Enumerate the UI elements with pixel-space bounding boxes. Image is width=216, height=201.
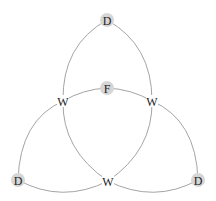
- node-label: F: [104, 82, 111, 96]
- node-d-bottom-left: D: [11, 173, 25, 188]
- triquetra-graph-diagram: D F W W D W D: [0, 0, 216, 201]
- node-f-center: F: [100, 81, 114, 96]
- node-label: D: [103, 14, 112, 28]
- edge-w-right-to-w-bottom: [108, 101, 152, 181]
- edge-f-to-w-right: [107, 88, 152, 101]
- node-w-bottom: W: [102, 175, 114, 189]
- node-label: D: [14, 174, 23, 188]
- node-label: W: [102, 175, 114, 189]
- edge-d-bottom-left-to-w-bottom: [18, 180, 108, 192]
- node-label: W: [146, 95, 158, 109]
- edge-w-bottom-to-d-bottom-right: [108, 180, 198, 192]
- node-d-bottom-right: D: [191, 173, 205, 188]
- node-w-right: W: [146, 95, 158, 109]
- edge-w-left-to-d-bottom-left: [18, 101, 63, 180]
- node-label: D: [194, 174, 203, 188]
- node-label: W: [57, 95, 69, 109]
- node-w-left: W: [57, 95, 69, 109]
- edges: [18, 20, 198, 192]
- node-d-top: D: [100, 13, 114, 28]
- edge-w-left-to-w-bottom: [63, 101, 108, 181]
- edge-w-right-to-d-bottom-right: [152, 101, 198, 180]
